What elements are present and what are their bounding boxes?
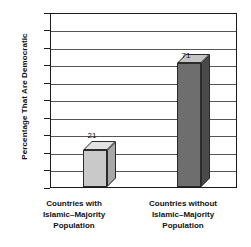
x-axis-label-2-line-1: Countries without bbox=[128, 198, 238, 209]
x-axis-label-2: Countries without Islamic–Majority Popul… bbox=[128, 198, 238, 231]
bar-value-label-2: 71 bbox=[166, 52, 206, 60]
bar-countries-without-islamic-majority[interactable] bbox=[177, 63, 201, 187]
x-axis-label-1: Countries with Islamic–Majority Populati… bbox=[19, 198, 129, 231]
x-axis-label-1-line-3: Population bbox=[19, 220, 129, 231]
bar-front-face bbox=[83, 150, 107, 187]
plot-area bbox=[50, 13, 237, 188]
bar-side-face bbox=[201, 54, 210, 187]
x-axis-label-1-line-2: Islamic–Majority bbox=[19, 209, 129, 220]
bar-front-face bbox=[177, 63, 201, 187]
y-axis-title: Percentage That Are Democratic bbox=[20, 7, 29, 187]
x-axis-label-1-line-1: Countries with bbox=[19, 198, 129, 209]
bar-countries-with-islamic-majority[interactable] bbox=[83, 150, 107, 187]
bar-value-label-1: 21 bbox=[72, 132, 112, 140]
gridline-80 bbox=[51, 49, 236, 50]
y-tick-mark-0 bbox=[44, 188, 50, 189]
gridline-90 bbox=[51, 31, 236, 32]
x-axis-label-2-line-2: Islamic–Majority bbox=[128, 209, 238, 220]
x-axis-label-2-line-3: Population bbox=[128, 220, 238, 231]
bar-chart: Percentage That Are Democratic 100 90 80… bbox=[0, 0, 251, 247]
